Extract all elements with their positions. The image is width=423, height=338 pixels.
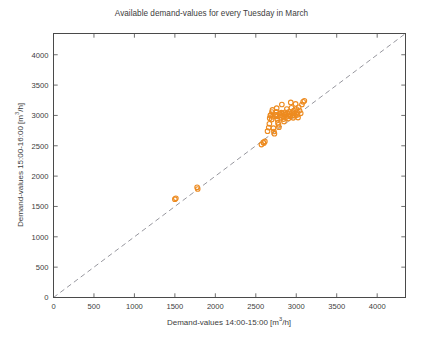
y-tick-label: 2000 <box>32 172 49 181</box>
x-tick-label: 1500 <box>166 302 183 311</box>
x-tick-label: 500 <box>88 302 101 311</box>
x-tick-label: 2500 <box>247 302 264 311</box>
scatter-plot-canvas: 0500100015002000250030003500400005001000… <box>0 0 423 338</box>
y-tick-label: 0 <box>44 293 48 302</box>
x-tick-label: 3500 <box>328 302 345 311</box>
x-tick-label: 1000 <box>126 302 143 311</box>
x-tick-label: 3000 <box>288 302 305 311</box>
y-tick-label: 2500 <box>32 142 49 151</box>
x-tick-label: 0 <box>51 302 55 311</box>
x-axis-label: Demand-values 14:00-15:00 [m3/h] <box>53 316 405 327</box>
y-tick-label: 3500 <box>32 81 49 90</box>
y-tick-label: 4000 <box>32 51 49 60</box>
y-axis-label: Demand-values 15:00-16:00 [m3/h] <box>14 33 28 297</box>
y-tick-label: 1500 <box>32 202 49 211</box>
chart-figure: Available demand-values for every Tuesda… <box>0 0 423 338</box>
x-tick-label: 4000 <box>369 302 386 311</box>
y-tick-label: 1000 <box>32 233 49 242</box>
y-tick-label: 3000 <box>32 111 49 120</box>
y-tick-label: 500 <box>36 263 49 272</box>
x-tick-label: 2000 <box>207 302 224 311</box>
